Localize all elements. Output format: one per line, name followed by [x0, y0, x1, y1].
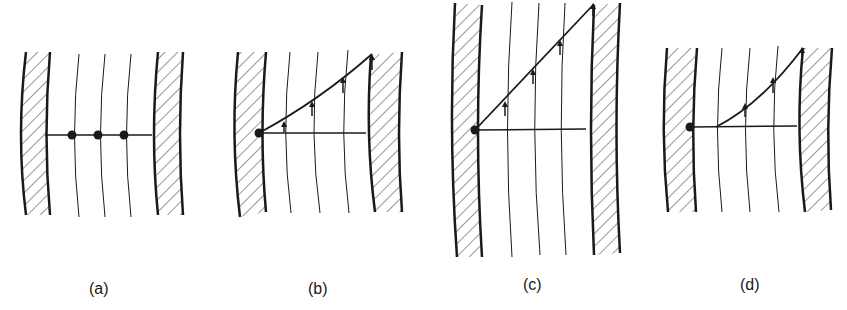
panel-label-c: (c) — [523, 276, 542, 294]
panel-b — [234, 50, 402, 217]
right-wall — [154, 52, 183, 215]
velocity-profile-figure — [0, 0, 847, 310]
panel-c — [452, 2, 620, 257]
panel-label-a: (a) — [89, 280, 109, 298]
particle-dot — [94, 131, 103, 140]
panel-label-b: (b) — [308, 280, 328, 298]
particle-dot — [68, 131, 77, 140]
particle-dot — [120, 131, 129, 140]
panel-label-d: (d) — [740, 276, 760, 294]
panel-a — [21, 52, 183, 217]
panel-d — [664, 46, 832, 212]
